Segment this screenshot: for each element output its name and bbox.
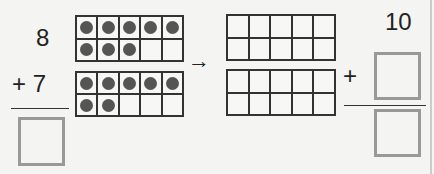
ten-frame-cell	[270, 70, 292, 93]
ten-frame-cell	[162, 16, 183, 39]
addend-7: + 7	[12, 70, 46, 98]
counter-dot-icon	[166, 77, 179, 90]
page-edge	[430, 0, 432, 174]
ten-frame-cell	[227, 70, 249, 93]
ten-frame-left-top	[75, 15, 184, 62]
ten-frame-cell	[76, 39, 97, 62]
sum-line-right	[344, 105, 426, 106]
ten-label: 10	[385, 8, 412, 36]
counter-dot-icon	[102, 77, 115, 90]
ten-frame-cell	[97, 16, 118, 39]
ten-frame-cell	[292, 70, 314, 93]
addend-8: 8	[36, 24, 49, 52]
ten-frame-cell	[249, 38, 271, 61]
counter-dot-icon	[80, 99, 93, 112]
ten-frame-cell	[313, 93, 335, 116]
counter-dot-icon	[102, 99, 115, 112]
ten-frame-right-top	[226, 14, 336, 61]
ten-frame-cell	[313, 15, 335, 38]
ten-frame-cell	[140, 16, 161, 39]
counter-dot-icon	[80, 77, 93, 90]
worksheet: 8 + 7 → 10 +	[0, 0, 434, 174]
ten-frame-cell	[270, 38, 292, 61]
ten-frame-cell	[76, 16, 97, 39]
answer-box-left-sum[interactable]	[18, 117, 65, 166]
ten-frame-cell	[227, 15, 249, 38]
ten-frame-cell	[162, 39, 183, 62]
counter-dot-icon	[80, 21, 93, 34]
ten-frame-cell	[76, 94, 97, 116]
arrow-icon: →	[188, 48, 210, 74]
counter-dot-icon	[80, 43, 93, 56]
ten-frame-cell	[140, 72, 161, 94]
ten-frame-cell	[313, 70, 335, 93]
ten-frame-cell	[97, 94, 118, 116]
ten-frame-cell	[270, 15, 292, 38]
ten-frame-cell	[227, 38, 249, 61]
ten-frame-cell	[76, 72, 97, 94]
answer-box-right-addend[interactable]	[374, 52, 421, 100]
ten-frame-cell	[227, 93, 249, 116]
ten-frame-cell	[249, 93, 271, 116]
ten-frame-cell	[119, 39, 140, 62]
ten-frame-right-bottom	[226, 69, 336, 116]
counter-dot-icon	[166, 21, 179, 34]
ten-frame-cell	[313, 38, 335, 61]
counter-dot-icon	[102, 43, 115, 56]
ten-frame-cell	[292, 93, 314, 116]
ten-frame-cell	[119, 16, 140, 39]
ten-frame-cell	[292, 38, 314, 61]
ten-frame-cell	[292, 15, 314, 38]
counter-dot-icon	[123, 21, 136, 34]
ten-frame-cell	[270, 93, 292, 116]
counter-dot-icon	[102, 21, 115, 34]
counter-dot-icon	[144, 21, 157, 34]
ten-frame-left-bottom	[75, 71, 184, 117]
answer-box-right-sum[interactable]	[374, 109, 421, 157]
ten-frame-cell	[249, 70, 271, 93]
ten-frame-cell	[119, 94, 140, 116]
ten-frame-cell	[140, 94, 161, 116]
ten-frame-cell	[162, 94, 183, 116]
ten-frame-cell	[249, 15, 271, 38]
plus-sign: +	[343, 62, 357, 90]
ten-frame-cell	[162, 72, 183, 94]
counter-dot-icon	[144, 77, 157, 90]
ten-frame-cell	[97, 39, 118, 62]
counter-dot-icon	[123, 77, 136, 90]
counter-dot-icon	[123, 43, 136, 56]
ten-frame-cell	[97, 72, 118, 94]
ten-frame-cell	[140, 39, 161, 62]
ten-frame-cell	[119, 72, 140, 94]
sum-line-left	[11, 108, 69, 109]
